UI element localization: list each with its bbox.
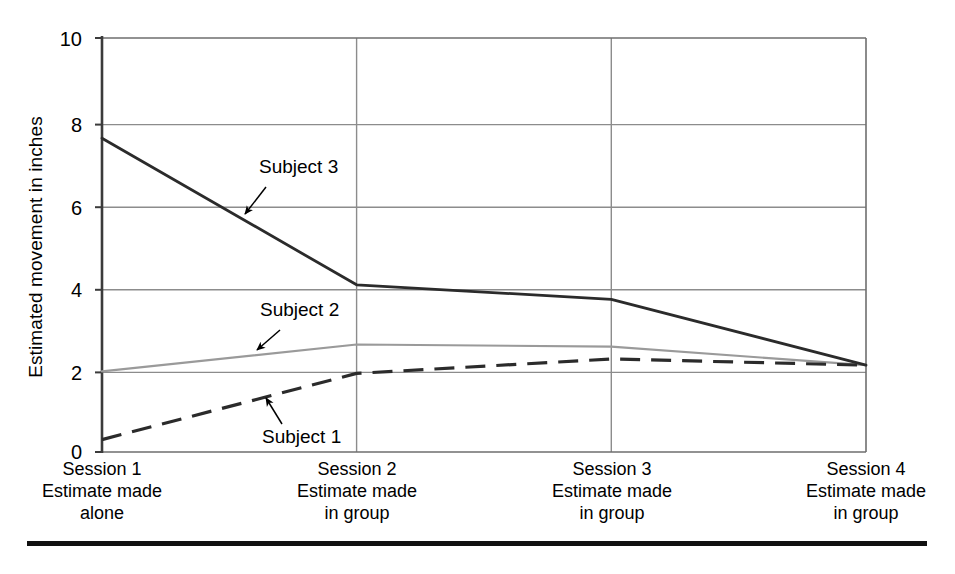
x-category-session-1: Session 1 Estimate made alone xyxy=(2,458,202,524)
figure-container: Estimated movement in inches 10 8 6 4 2 … xyxy=(0,0,955,574)
x-category-line3-2: in group xyxy=(257,502,457,524)
x-category-line3-3: in group xyxy=(512,502,712,524)
bottom-rule xyxy=(27,541,927,546)
x-category-line2-3: Estimate made xyxy=(512,480,712,502)
y-tick-label-2: 2 xyxy=(40,362,82,385)
x-category-title-1: Session 1 xyxy=(2,458,202,480)
x-category-session-3: Session 3 Estimate made in group xyxy=(512,458,712,524)
x-category-session-2: Session 2 Estimate made in group xyxy=(257,458,457,524)
x-category-line2-1: Estimate made xyxy=(2,480,202,502)
y-tick-label-6: 6 xyxy=(40,197,82,220)
y-tick-label-8: 8 xyxy=(40,114,82,137)
series-annotation-subject-1: Subject 1 xyxy=(262,426,341,448)
x-category-line3-1: alone xyxy=(2,502,202,524)
x-category-line3-4: in group xyxy=(766,502,955,524)
series-annotation-subject-2: Subject 2 xyxy=(260,299,339,321)
series-annotation-subject-3: Subject 3 xyxy=(259,156,338,178)
x-category-title-2: Session 2 xyxy=(257,458,457,480)
x-category-line2-2: Estimate made xyxy=(257,480,457,502)
x-category-line2-4: Estimate made xyxy=(766,480,955,502)
y-tick-label-4: 4 xyxy=(40,279,82,302)
y-tick-label-10: 10 xyxy=(40,28,82,51)
x-category-title-3: Session 3 xyxy=(512,458,712,480)
x-category-title-4: Session 4 xyxy=(766,458,955,480)
x-category-session-4: Session 4 Estimate made in group xyxy=(766,458,955,524)
plot-area-background xyxy=(102,38,866,452)
